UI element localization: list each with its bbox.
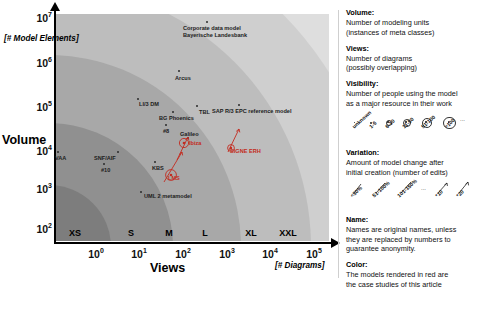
legend-views-line-2: (possibly overlapping) (346, 63, 474, 73)
legend-color-line-2: the case studies of this article (346, 280, 474, 290)
legend-views: Views: Number of diagrams (possibly over… (346, 44, 474, 74)
data-point-label: #10 (101, 167, 110, 174)
data-point-label: Arcus (175, 75, 191, 82)
size-band-xl: XL (238, 228, 264, 238)
legend-color-title: Color: (346, 260, 474, 270)
y-tick-6: 107 (4, 11, 52, 23)
plot-canvas (55, 14, 329, 241)
variation-ellipsis: ... (421, 185, 426, 191)
data-point-label: UML 2 metamodel (144, 193, 192, 200)
x-tick-5: 104 (250, 247, 290, 259)
data-point-label: SNF/AIF (94, 155, 116, 162)
legend-name-line-3: guarantee anonymity. (346, 244, 474, 254)
legend-visibility-title: Visibility: (346, 79, 474, 89)
size-band-xs: XS (62, 228, 88, 238)
legend-name-title: Name: (346, 215, 474, 225)
data-point-label: VAA (55, 155, 66, 162)
data-point-label: TBL (199, 109, 210, 116)
x-axis-title: Views (150, 261, 185, 275)
size-band-s: S (118, 228, 144, 238)
x-tick-4: 103 (207, 247, 247, 259)
data-point-label: SAP R/3 EPC reference model (212, 108, 291, 115)
legend-panel: Volume: Number of modeling units (instan… (346, 8, 474, 308)
visibility-scale: unknown 1-5 6-10 11-50 (348, 112, 474, 142)
data-point-label: SIGNE ERH (230, 148, 261, 155)
legend-volume-title: Volume: (346, 8, 474, 18)
y-axis-unit: [# Model Elements] (4, 34, 79, 43)
legend-volume-line-1: Number of modeling units (346, 18, 474, 28)
legend-variation-title: Variation: (346, 148, 474, 158)
legend-views-line-1: Number of diagrams (346, 54, 474, 64)
legend-volume: Volume: Number of modeling units (instan… (346, 8, 474, 38)
legend-variation: Variation: Amount of model change after … (346, 148, 474, 209)
size-band-xxl: XXL (275, 228, 301, 238)
x-tick-6: 105 (294, 247, 334, 259)
x-tick-3: 102 (163, 247, 203, 259)
y-tick-1: 102 (4, 222, 52, 234)
y-axis-line (54, 8, 56, 244)
legend-views-title: Views: (346, 44, 474, 54)
legend-visibility-line-2: as a major resource in their work (346, 99, 474, 109)
y-tick-4: 105 (4, 100, 52, 112)
legend-volume-line-2: (instances of meta classes) (346, 28, 474, 38)
chart-figure: 107 106 105 104 103 102 100 101 102 103 … (0, 0, 477, 317)
variation-scale: <50% 51-100% 101-150% ... *10 (348, 181, 474, 209)
data-point-label: Ibiza (189, 140, 201, 147)
y-axis-title: Volume (2, 133, 46, 147)
data-point-label: Corporate data model Bayerische Landesba… (183, 25, 247, 40)
legend-variation-line-2: initial creation (number of edits) (346, 168, 474, 178)
y-tick-2: 103 (4, 182, 52, 194)
data-point-label: LI/3 DM (139, 101, 159, 108)
visibility-label-11-50: 11-50 (401, 116, 415, 129)
data-point-label: BG Phoenics (159, 115, 194, 122)
plot-area: 107 106 105 104 103 102 100 101 102 103 … (0, 0, 340, 317)
legend-color-line-1: The models rendered in red are (346, 270, 474, 280)
legend-name-line-1: Names are original names, unless (346, 225, 474, 235)
legend-name: Name: Names are original names, unless t… (346, 215, 474, 255)
legend-visibility-line-1: Number of people using the model (346, 89, 474, 99)
lms-symbol[interactable] (160, 148, 194, 188)
size-band-arcs (55, 14, 329, 241)
y-tick-5: 106 (4, 56, 52, 68)
x-axis-line (54, 242, 335, 244)
visibility-label-6-10: 6-10 (384, 118, 396, 130)
x-axis-unit: [# Diagrams] (275, 261, 325, 270)
x-tick-1: 100 (76, 247, 116, 259)
visibility-ellipsis: ... (460, 116, 465, 122)
legend-name-line-2: they are replaced by numbers to (346, 235, 474, 245)
x-tick-2: 101 (119, 247, 159, 259)
panel-divider (338, 10, 339, 278)
legend-color: Color: The models rendered in red are th… (346, 260, 474, 290)
y-tick-labels: 107 106 105 104 103 102 (0, 0, 52, 317)
legend-visibility: Visibility: Number of people using the m… (346, 79, 474, 142)
data-point-label: LMS (168, 175, 180, 182)
legend-variation-line-1: Amount of model change after (346, 158, 474, 168)
size-band-l: L (192, 228, 218, 238)
data-point-label: #8 (163, 128, 169, 135)
size-band-m: M (156, 228, 182, 238)
